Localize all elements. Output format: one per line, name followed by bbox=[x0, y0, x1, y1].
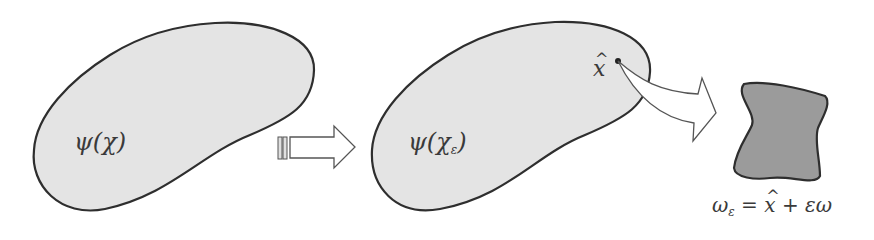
formula-plus: + bbox=[776, 193, 805, 217]
formula-rhs: εω bbox=[805, 193, 832, 217]
label-psi-chi-epsilon: ψ(χε) bbox=[408, 128, 467, 157]
label-close-paren: ) bbox=[457, 128, 466, 156]
label-xhat: ^x bbox=[593, 56, 605, 81]
domain-left-shape bbox=[34, 23, 314, 211]
formula-equals: = bbox=[735, 193, 764, 217]
hat-accent: ^ bbox=[595, 50, 608, 69]
transition-arrow-icon bbox=[278, 126, 355, 168]
formula-omega-epsilon: ωε = ^x + εω bbox=[712, 193, 832, 219]
label-psi-chi: ψ(χ) bbox=[74, 128, 126, 156]
formula-xhat: ^x bbox=[764, 193, 775, 217]
inclusion-shape bbox=[734, 83, 827, 180]
label-psi-chi-main: ψ(χ bbox=[408, 128, 451, 156]
formula-lhs: ω bbox=[712, 193, 728, 217]
formula-hat-accent: ^ bbox=[766, 187, 779, 206]
